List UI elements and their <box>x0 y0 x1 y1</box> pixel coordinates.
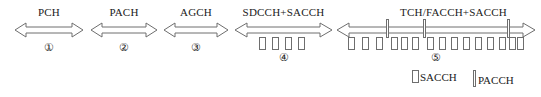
channel-index-sdcch-sacch: ④ <box>234 52 333 64</box>
channel-index-pch: ① <box>14 42 84 54</box>
channel-group-pach: PACH ② <box>90 6 158 56</box>
pacch-burst <box>507 19 510 38</box>
double-arrow-pch <box>14 21 84 39</box>
pacch-burst <box>386 19 389 38</box>
sacch-swatch-icon <box>412 70 419 83</box>
channel-group-tch-facch-sacch: TCH/FACCH+SACCH <box>336 6 536 62</box>
channel-label-sdcch-sacch: SDCCH+SACCH <box>234 6 333 19</box>
channel-label-agch: AGCH <box>163 6 229 19</box>
channel-group-sdcch-sacch: SDCCH+SACCH ④ <box>234 6 333 62</box>
channel-group-agch: AGCH ③ <box>163 6 229 56</box>
channel-label-tch-facch-sacch: TCH/FACCH+SACCH <box>371 6 536 19</box>
sacch-burst <box>272 37 279 50</box>
legend-label-sacch: SACCH <box>420 71 457 83</box>
sacch-burst <box>285 37 292 50</box>
legend-label-pacch: PACCH <box>478 74 514 86</box>
sacch-burst-row-sdcch <box>234 37 333 52</box>
sacch-burst <box>259 37 266 50</box>
legend: SACCH PACCH <box>412 70 541 92</box>
pacch-burst-row-tch <box>336 19 536 41</box>
pacch-swatch-icon <box>473 70 476 87</box>
double-arrow-agch <box>163 21 229 39</box>
legend-item-sacch: SACCH <box>412 70 457 84</box>
channel-label-pach: PACH <box>90 6 158 19</box>
double-arrow-pach <box>90 21 158 39</box>
channel-timeline-diagram: PCH ① PACH ② AGCH ③ SDCCH+SACCH <box>0 0 541 97</box>
channel-index-agch: ③ <box>163 42 229 54</box>
sacch-burst <box>298 37 305 50</box>
channel-index-pach: ② <box>90 42 158 54</box>
legend-item-pacch: PACCH <box>473 70 514 87</box>
channel-label-pch: PCH <box>14 6 84 19</box>
channel-index-tch-facch-sacch: ⑤ <box>336 52 536 64</box>
channel-group-pch: PCH ① <box>14 6 84 56</box>
pacch-burst <box>423 19 426 38</box>
